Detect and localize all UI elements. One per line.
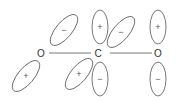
atom-label-o-right: O [154,48,162,59]
phase-sign: − [61,25,66,35]
orbital-lobe-c-upper-vertical: + [92,10,108,44]
orbital-lobe-o-right-lower: − [150,62,166,96]
orbital-lobe-o-left-lower: + [8,56,45,95]
phase-sign: + [76,69,81,79]
orbital-lobe-c-lower-tilted: + [61,54,98,93]
orbital-lobe-c-lower-vertical: − [92,62,108,96]
phase-sign: + [97,22,102,32]
orbital-lobe-c-upper-tilted: − [103,12,140,51]
phase-sign: − [118,27,123,37]
orbital-lobe-o-right-upper: + [150,10,166,44]
atom-label-o-left: O [37,48,45,59]
phase-sign: + [23,71,28,81]
phase-sign: − [155,74,160,84]
co2-orbital-diagram: −++−−++−OCO [0,0,175,101]
phase-sign: − [97,74,102,84]
phase-sign: + [155,22,160,32]
atom-label-c-center: C [94,48,101,59]
orbital-lobe-o-left-upper: − [46,10,83,49]
